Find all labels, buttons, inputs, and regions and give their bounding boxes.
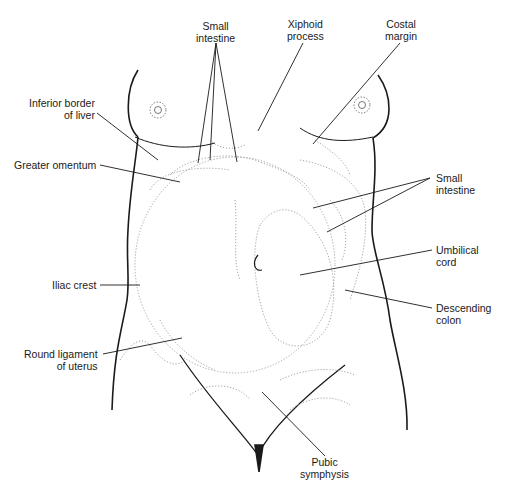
label-line: Xiphoid [287,18,324,30]
label-line: of uterus [24,360,98,372]
label-costal-margin: Costal margin [385,18,417,42]
label-line: process [287,30,324,42]
label-round-ligament: Round ligament of uterus [24,348,98,372]
label-line: Greater omentum [14,159,96,171]
label-small-intestine-top: Small intestine [196,20,235,44]
abdomen-illustration [0,0,506,480]
nipples [150,97,370,118]
label-line: Descending [436,302,491,314]
label-inferior-border-liver: Inferior border of liver [29,97,95,121]
label-line: Umbilical [436,244,479,256]
label-line: Iliac crest [52,279,96,291]
label-line: intestine [436,184,475,196]
label-line: margin [385,30,417,42]
label-line: Inferior border [29,97,95,109]
body-outline [112,70,407,472]
label-iliac-crest: Iliac crest [52,279,96,291]
label-small-intestine-right: Small intestine [436,172,475,196]
label-line: Small [436,172,475,184]
anatomy-diagram: Small intestine Xiphoid process Costal m… [0,0,506,480]
label-line: Round ligament [24,348,98,360]
label-line: intestine [196,32,235,44]
label-line: Costal [385,18,417,30]
label-line: of liver [29,109,95,121]
label-line: cord [436,256,479,268]
label-line: Pubic [300,456,349,468]
label-greater-omentum: Greater omentum [14,159,96,171]
internal-organs [120,140,366,410]
label-line: Small [196,20,235,32]
label-line: colon [436,314,491,326]
label-xiphoid-process: Xiphoid process [287,18,324,42]
label-descending-colon: Descending colon [436,302,491,326]
label-umbilical-cord: Umbilical cord [436,244,479,268]
label-line: symphysis [300,468,349,480]
label-pubic-symphysis: Pubic symphysis [300,456,349,480]
fetus-ear [255,255,262,270]
leader-lines [97,43,432,456]
